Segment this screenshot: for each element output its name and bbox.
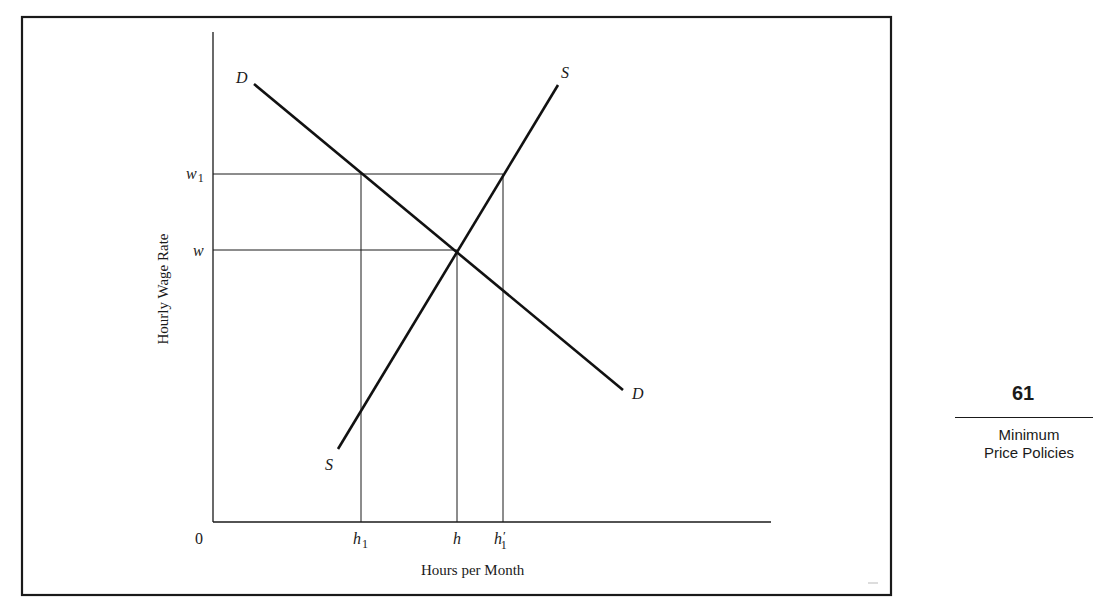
y-tick-w1: w1 [186, 165, 204, 185]
demand-label-top: D [235, 69, 248, 86]
demand-curve [254, 84, 623, 390]
x-axis-title: Hours per Month [421, 562, 525, 578]
figure-panel: D D S S w1 w 0 h1 h h′1 Hours per Month … [0, 0, 1093, 612]
x-tick-h: h [453, 530, 461, 547]
demand-label-bottom: D [631, 385, 644, 402]
origin-label: 0 [195, 530, 203, 547]
x-tick-h1-prime: h′1 [494, 528, 507, 552]
y-axis-title: Hourly Wage Rate [155, 233, 171, 344]
chapter-title-line2: Price Policies [969, 444, 1089, 462]
supply-curve [338, 85, 558, 449]
y-tick-w: w [193, 242, 204, 259]
page-number: 61 [973, 378, 1073, 408]
margin-divider [955, 417, 1093, 418]
supply-label-top: S [561, 64, 569, 81]
x-tick-h1: h1 [353, 530, 368, 551]
supply-label-bottom: S [325, 456, 333, 473]
chapter-title-line1: Minimum [969, 426, 1089, 444]
margin-note: 61 Minimum Price Policies [955, 378, 1093, 462]
